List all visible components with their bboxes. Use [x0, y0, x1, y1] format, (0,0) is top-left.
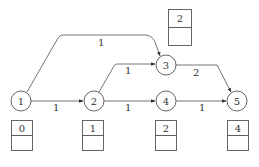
node-4: 4	[156, 91, 176, 111]
node-1-label: 1	[18, 96, 24, 107]
box-node-5-bottom-cell	[228, 136, 249, 151]
edge-label-2-4: 1	[125, 102, 131, 113]
value-boxes: 0 1 2 2 4	[12, 10, 249, 151]
box-node-5: 4	[228, 121, 249, 151]
node-2-label: 2	[91, 96, 97, 107]
edge-label-3-5: 2	[193, 67, 199, 78]
node-1: 1	[11, 91, 31, 111]
graph-diagram: 1 1 1 1 2 1 1 2 3 4	[0, 0, 259, 167]
edge-label-4-5: 1	[199, 102, 205, 113]
box-node-4-top-value: 2	[163, 123, 169, 134]
edge-label-1-2: 1	[53, 102, 59, 113]
edge-label-1-3: 1	[98, 37, 104, 48]
edge-1-to-3	[27, 35, 160, 92]
node-4-label: 4	[163, 96, 169, 107]
node-3: 3	[156, 55, 176, 75]
box-node-2-bottom-cell	[83, 136, 104, 151]
box-node-2: 1	[83, 121, 104, 151]
box-node-3-top-value: 2	[177, 13, 183, 24]
box-node-5-top-value: 4	[235, 123, 241, 134]
edge-3-to-5	[176, 65, 231, 92]
node-5: 5	[227, 91, 247, 111]
box-node-2-top-value: 1	[90, 123, 96, 134]
box-node-3-bottom-cell	[169, 28, 192, 46]
box-node-4-bottom-cell	[156, 136, 177, 151]
box-node-1: 0	[12, 121, 33, 151]
node-3-label: 3	[163, 60, 169, 71]
box-node-1-top-value: 0	[19, 123, 25, 134]
box-node-1-bottom-cell	[12, 136, 33, 151]
box-node-4: 2	[156, 121, 177, 151]
node-2: 2	[84, 91, 104, 111]
edge-label-2-3: 1	[125, 65, 131, 76]
node-5-label: 5	[234, 96, 240, 107]
edges: 1 1 1 1 2 1	[27, 35, 231, 113]
box-node-3: 2	[169, 10, 192, 46]
